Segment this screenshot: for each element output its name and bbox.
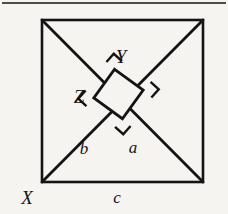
- label-side-c: c: [113, 189, 121, 206]
- right-angle-mark-right: [143, 82, 159, 98]
- figure-page: Y Z X b a c: [0, 0, 228, 214]
- right-angle-mark-bottom: [115, 119, 131, 135]
- label-side-a: a: [129, 139, 138, 156]
- inner-tilted-square: [94, 69, 143, 118]
- label-vertex-y: Y: [116, 47, 127, 66]
- label-vertex-z: Z: [74, 87, 85, 106]
- label-side-b: b: [80, 140, 89, 157]
- label-vertex-x: X: [21, 188, 33, 207]
- geometry-figure: [0, 0, 228, 214]
